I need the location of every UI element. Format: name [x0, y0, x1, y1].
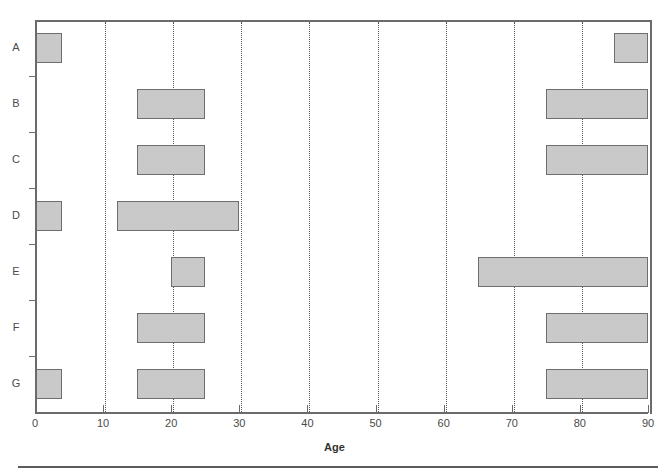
x-tick-80	[580, 405, 581, 413]
x-axis-line	[35, 412, 648, 414]
x-tick-20	[171, 405, 172, 413]
y-tick-label-g: G	[4, 378, 28, 389]
y-tick-label-f: F	[4, 322, 28, 333]
y-tick-4	[29, 244, 35, 245]
bar-e-0	[171, 257, 205, 287]
y-tick-6	[29, 356, 35, 357]
x-tick-label-30: 30	[219, 417, 259, 429]
bar-g-0	[35, 369, 62, 399]
x-tick-50	[376, 405, 377, 413]
x-tick-40	[307, 405, 308, 413]
y-tick-1	[29, 76, 35, 77]
y-tick-label-b: B	[4, 98, 28, 109]
bar-f-0	[137, 313, 205, 343]
x-tick-label-60: 60	[424, 417, 464, 429]
x-tick-0	[35, 405, 36, 413]
y-tick-label-d: D	[4, 210, 28, 221]
x-tick-label-0: 0	[15, 417, 55, 429]
gridline-60	[446, 22, 447, 414]
gridline-30	[241, 22, 242, 414]
bar-f-1	[546, 313, 648, 343]
bar-a-0	[35, 33, 62, 63]
gridline-40	[309, 22, 310, 414]
bar-g-1	[137, 369, 205, 399]
gridline-10	[105, 22, 106, 414]
x-tick-label-40: 40	[287, 417, 327, 429]
bar-c-1	[546, 145, 648, 175]
x-tick-90	[648, 405, 649, 413]
y-tick-label-a: A	[4, 42, 28, 53]
y-axis-line	[35, 20, 37, 412]
x-tick-label-10: 10	[83, 417, 123, 429]
x-tick-10	[103, 405, 104, 413]
gridline-70	[514, 22, 515, 414]
y-tick-label-c: C	[4, 154, 28, 165]
gridline-50	[378, 22, 379, 414]
x-tick-60	[444, 405, 445, 413]
x-tick-label-50: 50	[356, 417, 396, 429]
bar-e-1	[478, 257, 648, 287]
y-tick-2	[29, 132, 35, 133]
bar-b-0	[137, 89, 205, 119]
x-axis-title: Age	[0, 441, 669, 453]
x-tick-label-80: 80	[560, 417, 600, 429]
x-tick-label-70: 70	[492, 417, 532, 429]
y-tick-3	[29, 188, 35, 189]
bar-g-2	[546, 369, 648, 399]
y-tick-label-e: E	[4, 266, 28, 277]
bar-b-1	[546, 89, 648, 119]
x-tick-70	[512, 405, 513, 413]
age-interval-chart: ABCDEFG 0102030405060708090 Age	[0, 0, 669, 474]
y-tick-5	[29, 300, 35, 301]
bar-c-0	[137, 145, 205, 175]
x-tick-label-20: 20	[151, 417, 191, 429]
x-tick-30	[239, 405, 240, 413]
gridline-80	[582, 22, 583, 414]
footer-divider	[18, 466, 658, 468]
bar-d-0	[35, 201, 62, 231]
bar-d-1	[117, 201, 240, 231]
x-tick-label-90: 90	[628, 417, 668, 429]
bar-a-1	[614, 33, 648, 63]
